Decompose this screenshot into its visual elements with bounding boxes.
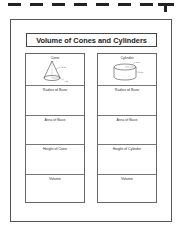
cut-line-corner-vertical <box>164 3 167 12</box>
cone-header: Cone 3 m 4 m <box>26 54 84 85</box>
row-label: Height of Cylinder <box>113 147 142 151</box>
cylinder-height-row: Height of Cylinder <box>98 144 156 174</box>
cone-height-row: Height of Cone <box>26 144 84 174</box>
row-label: Volume <box>121 177 133 181</box>
cylinder-area-row: Area of Base <box>98 115 156 144</box>
svg-text:4 m: 4 m <box>64 80 68 83</box>
svg-text:3 m: 3 m <box>62 66 66 69</box>
cylinder-radius-row: Radius of Base <box>98 85 156 115</box>
cylinder-column: Cylinder 3 m 5 m Radius of Base Area of … <box>97 53 157 203</box>
worksheet-title: Volume of Cones and Cylinders <box>26 33 157 47</box>
row-label: Radius of Base <box>43 88 67 92</box>
cut-line-dashed <box>8 3 174 6</box>
svg-text:3 m: 3 m <box>136 61 140 64</box>
cylinder-header: Cylinder 3 m 5 m <box>98 54 156 85</box>
cylinder-icon: 3 m 5 m <box>98 60 156 84</box>
row-label: Volume <box>49 177 61 181</box>
cone-icon: 3 m 4 m <box>26 60 84 84</box>
row-label: Radius of Base <box>115 88 139 92</box>
svg-text:5 m: 5 m <box>139 71 143 74</box>
cone-radius-row: Radius of Base <box>26 85 84 115</box>
cone-area-row: Area of Base <box>26 115 84 144</box>
row-label: Area of Base <box>45 118 66 122</box>
cone-volume-row: Volume <box>26 174 84 203</box>
cylinder-volume-row: Volume <box>98 174 156 203</box>
row-label: Area of Base <box>117 118 138 122</box>
row-label: Height of Cone <box>43 147 67 151</box>
cone-column: Cone 3 m 4 m Radius of Base Area of Base… <box>25 53 85 203</box>
